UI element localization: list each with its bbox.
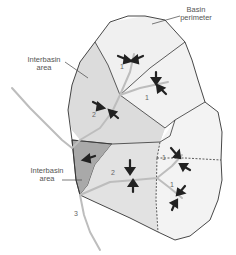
stream-order-label: 1 (170, 181, 174, 188)
stream-order-label: 2 (92, 111, 96, 118)
interbasin-area-top-label-line2: area (20, 64, 68, 72)
stream-order-label: 1 (120, 63, 124, 70)
stream-order-label: 1 (162, 154, 166, 161)
basin-perimeter-label: Basin perimeter (170, 6, 222, 22)
basin-perimeter-label-line2: perimeter (170, 14, 222, 22)
interbasin-area-bottom-label-line2: area (23, 175, 71, 183)
drainage-basin-diagram (0, 0, 236, 255)
interbasin-area-top-label: Interbasin area (20, 56, 68, 72)
interbasin-area-bottom-label: Interbasin area (23, 167, 71, 183)
stream-order-label: 1 (145, 94, 149, 101)
stream-order-label: 2 (111, 169, 115, 176)
stream-order-label: 3 (74, 210, 78, 217)
